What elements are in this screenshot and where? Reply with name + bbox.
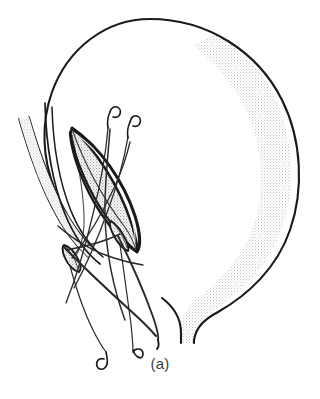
suture-needle-upper-left xyxy=(108,107,121,128)
anatomical-illustration xyxy=(0,0,320,399)
organ-wall-shading xyxy=(175,34,291,343)
suture-needle-upper-right xyxy=(128,116,141,138)
figure-caption: (a) xyxy=(0,356,320,371)
suture-needle-lower-right xyxy=(157,340,159,349)
suture-thread-9 xyxy=(120,245,133,350)
figure-container: (a) xyxy=(0,0,320,399)
organ-neck xyxy=(162,298,181,343)
